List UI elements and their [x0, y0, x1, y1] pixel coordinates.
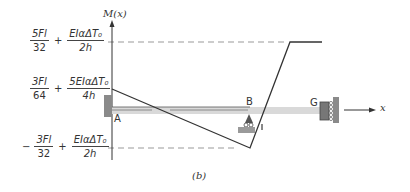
fraction-denominator: 4h — [83, 89, 96, 101]
node-b-label: B — [246, 96, 253, 107]
plus-sign: + — [54, 35, 62, 46]
level-bottom-label: − 3Fl32 + EIαΔT₀2h — [22, 134, 109, 159]
minus-sign: − — [22, 141, 30, 152]
figure-caption: (b) — [192, 170, 206, 181]
beam — [112, 107, 322, 114]
support-g — [320, 97, 339, 123]
support-b — [238, 114, 255, 133]
level-top-label: 5Fl32 + EIαΔT₀2h — [30, 28, 104, 53]
fraction-numerator: 3Fl — [30, 76, 49, 89]
x-axis-arrow-icon — [369, 108, 376, 113]
y-axis-label: M(x) — [103, 8, 127, 19]
fraction-denominator: 64 — [33, 89, 46, 101]
plus-sign: + — [58, 141, 66, 152]
fraction-denominator: 32 — [33, 41, 46, 53]
moment-curve — [112, 42, 322, 148]
node-a-label: A — [114, 113, 121, 124]
fraction-numerator: 5EIαΔT₀ — [67, 76, 110, 89]
fraction-denominator: 2h — [79, 41, 92, 53]
fraction-numerator: 5Fl — [30, 28, 49, 41]
y-axis-arrow-icon — [110, 20, 115, 27]
fraction-numerator: EIαΔT₀ — [67, 28, 104, 41]
small-tick-mark — [261, 124, 263, 130]
x-axis-label: x — [380, 102, 386, 113]
level-start-label: 3Fl64 + 5EIαΔT₀4h — [30, 76, 110, 101]
node-g-label: G — [310, 97, 318, 108]
fraction-numerator: 3Fl — [34, 134, 53, 147]
fraction-denominator: 32 — [37, 147, 50, 159]
plus-sign: + — [54, 83, 62, 94]
fraction-denominator: 2h — [84, 147, 97, 159]
fraction-numerator: EIαΔT₀ — [72, 134, 109, 147]
